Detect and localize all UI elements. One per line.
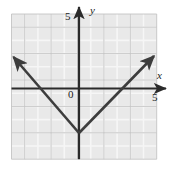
plot-background (12, 14, 157, 159)
origin-label: 0 (68, 89, 74, 100)
x-axis-label: x (157, 70, 162, 81)
x-axis-tick-label-5: 5 (152, 92, 158, 103)
y-axis-label: y (90, 5, 95, 16)
y-axis-tick-label-5: 5 (65, 11, 71, 22)
absolute-value-graph-figure: y x 5 5 0 (0, 0, 176, 169)
graph-canvas (0, 0, 176, 169)
